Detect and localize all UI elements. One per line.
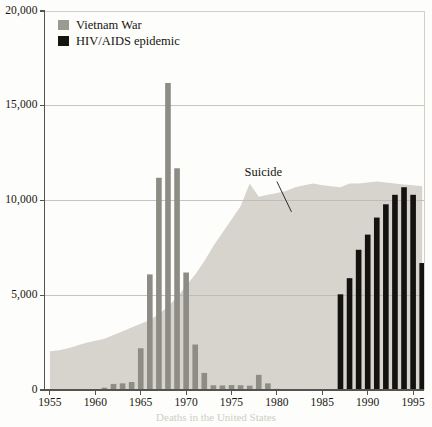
x-axis-tick-label: 1980 bbox=[255, 396, 299, 408]
x-axis-tick-label: 1990 bbox=[346, 396, 390, 408]
chart-canvas bbox=[0, 0, 432, 427]
legend-swatch-hiv-aids bbox=[58, 36, 69, 46]
x-axis-tick-label: 1985 bbox=[300, 396, 344, 408]
y-axis-tick-label: 0 bbox=[0, 383, 38, 395]
legend-swatch-vietnam-war bbox=[58, 20, 69, 30]
y-axis-tick-label: 10,000 bbox=[0, 193, 38, 205]
chart-legend: Vietnam War HIV/AIDS epidemic bbox=[58, 17, 180, 49]
figure-caption: Deaths in the United States bbox=[0, 411, 432, 427]
annotation-label-suicide: Suicide bbox=[245, 165, 283, 180]
figure-chart-deaths-us: 20,00015,00010,0005,0000 195519601965197… bbox=[0, 0, 432, 427]
y-axis-tick-label: 5,000 bbox=[0, 288, 38, 300]
x-axis-tick-label: 1995 bbox=[391, 396, 432, 408]
legend-label-vietnam-war: Vietnam War bbox=[76, 18, 142, 32]
x-axis-tick-label: 1955 bbox=[28, 396, 72, 408]
x-axis-tick-label: 1965 bbox=[119, 396, 163, 408]
y-axis-tick-label: 15,000 bbox=[0, 98, 38, 110]
y-axis-tick-label: 20,000 bbox=[0, 4, 38, 16]
legend-label-hiv-aids: HIV/AIDS epidemic bbox=[76, 34, 180, 48]
x-axis-tick-label: 1960 bbox=[73, 396, 117, 408]
x-axis-tick-label: 1970 bbox=[164, 396, 208, 408]
legend-item-vietnam-war: Vietnam War bbox=[58, 17, 180, 32]
legend-item-hiv-aids: HIV/AIDS epidemic bbox=[58, 33, 180, 48]
x-axis-tick-label: 1975 bbox=[210, 396, 254, 408]
